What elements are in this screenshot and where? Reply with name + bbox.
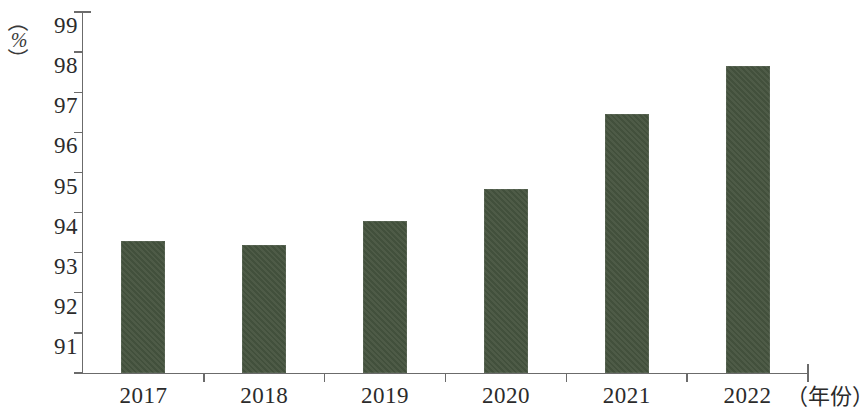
y-axis-tick-label: 94 [54, 214, 78, 240]
axis-frame-top-stub [82, 11, 91, 13]
y-axis-tick [74, 11, 83, 12]
y-axis-tick [74, 372, 83, 373]
y-axis-tick-label: 99 [54, 13, 78, 39]
x-axis-tick [566, 373, 567, 382]
y-axis-tick [74, 132, 83, 133]
x-axis-tick-label: 2021 [603, 383, 651, 408]
plot-area: 9192939495969798991002017201820192020202… [82, 12, 808, 374]
y-axis-tick [74, 292, 83, 293]
y-axis-tick-label: 93 [54, 254, 78, 280]
y-axis-tick [74, 252, 83, 253]
bar-2021 [605, 114, 649, 373]
x-axis-unit-label: （年份） [786, 378, 863, 408]
bar-2018 [242, 245, 286, 373]
y-axis-tick-label: 91 [54, 334, 78, 360]
y-axis-tick-label: 97 [54, 93, 78, 119]
x-axis-tick-label: 2022 [724, 383, 772, 408]
y-axis-unit-open-paren: （ [12, 10, 26, 31]
x-axis-tick-label: 2019 [361, 383, 409, 408]
y-axis-tick [74, 212, 83, 213]
x-axis-tick-label: 2020 [482, 383, 530, 408]
y-axis-unit-percent-symbol: % [11, 30, 28, 50]
x-axis-tick [324, 373, 325, 382]
y-axis-tick [74, 332, 83, 333]
y-axis-tick-label: 96 [54, 133, 78, 159]
y-axis-unit-label: （ % ） [2, 6, 36, 72]
y-axis-tick [74, 92, 83, 93]
x-axis-tick [445, 373, 446, 382]
x-axis-tick-label: 2018 [240, 383, 288, 408]
bar-2019 [363, 221, 407, 373]
x-axis-tick-label: 2017 [119, 383, 167, 408]
x-axis-tick [686, 373, 687, 382]
y-axis-unit-close-paren: ） [12, 47, 26, 68]
y-axis-tick [74, 172, 83, 173]
x-axis-tick [203, 373, 204, 382]
y-axis-tick-label: 92 [54, 294, 78, 320]
bar-2020 [484, 189, 528, 374]
bar-2017 [121, 241, 165, 373]
y-axis-tick-label: 98 [54, 53, 78, 79]
bar-chart: （ % ） 9192939495969798991002017201820192… [0, 0, 863, 408]
y-axis-tick-label: 95 [54, 174, 78, 200]
bar-2022 [726, 66, 770, 373]
y-axis-tick [74, 51, 83, 52]
